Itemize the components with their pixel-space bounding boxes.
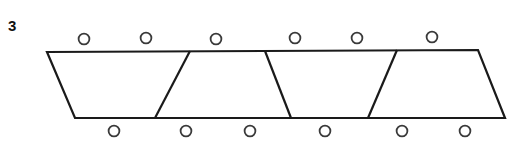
band-group bbox=[47, 50, 505, 118]
figure-page: 3 bbox=[0, 0, 527, 155]
top-circle-2 bbox=[141, 33, 152, 44]
bottom-circles-group bbox=[109, 126, 471, 137]
bottom-circle-3 bbox=[245, 126, 256, 137]
top-circle-3 bbox=[211, 34, 222, 45]
top-circle-4 bbox=[290, 33, 301, 44]
top-circle-1 bbox=[79, 34, 90, 45]
geometry-figure-svg bbox=[0, 0, 527, 155]
top-circle-6 bbox=[427, 32, 438, 43]
band-outline bbox=[47, 50, 505, 118]
top-circle-5 bbox=[352, 33, 363, 44]
bottom-circle-5 bbox=[397, 126, 408, 137]
bottom-circle-2 bbox=[181, 126, 192, 137]
top-circles-group bbox=[79, 32, 438, 45]
bottom-circle-1 bbox=[109, 126, 120, 137]
bottom-circle-6 bbox=[460, 126, 471, 137]
bottom-circle-4 bbox=[320, 126, 331, 137]
